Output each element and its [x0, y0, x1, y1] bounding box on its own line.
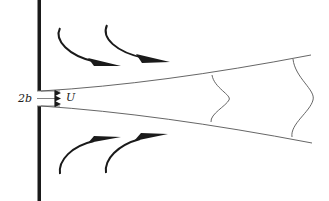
jet-diagram: 2b U — [0, 0, 329, 201]
entrainment-arrow-lower-2 — [106, 133, 168, 173]
velocity-profile-2 — [292, 59, 313, 137]
wall-lower — [38, 106, 42, 201]
diagram-drawing — [0, 0, 329, 201]
jet-boundary-lower — [41, 106, 312, 143]
jet-boundary-upper — [41, 55, 311, 91]
wall-upper — [38, 0, 42, 91]
entrainment-arrow-upper-1 — [59, 28, 121, 66]
exit-velocity-arrows-icon — [55, 90, 61, 107]
velocity-profile-1 — [211, 75, 229, 122]
slot-width-label: 2b — [18, 93, 32, 104]
entrainment-arrow-upper-2 — [106, 25, 170, 63]
exit-velocity-label: U — [66, 92, 75, 103]
